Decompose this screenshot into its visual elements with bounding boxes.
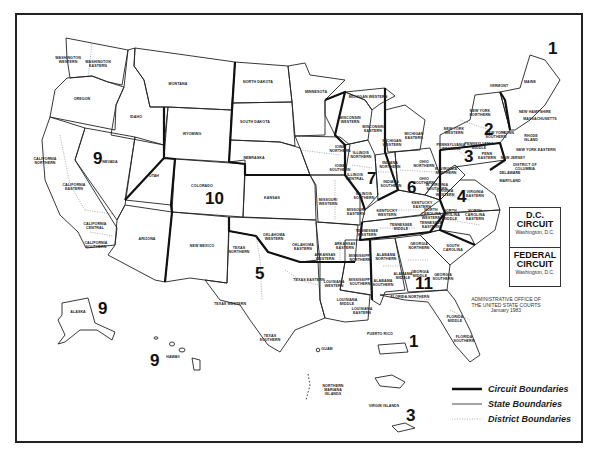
district-label: NEW MEXICO bbox=[182, 244, 222, 248]
district-label: OREGON bbox=[62, 97, 102, 101]
circuit-number: 2 bbox=[484, 121, 493, 138]
federal-circuit: FEDERAL CIRCUIT Washington, D.C. bbox=[510, 247, 560, 286]
district-label: NEW JERSEY bbox=[493, 156, 533, 160]
circuit-number: 6 bbox=[407, 179, 416, 196]
district-label: FLORIDA SOUTHERN bbox=[444, 335, 484, 343]
circuit-number: 1 bbox=[548, 40, 557, 57]
district-label: CALIFORNIA CENTRAL bbox=[75, 222, 115, 230]
district-label: MONTANA bbox=[158, 82, 198, 86]
district-label: NORTH DAKOTA bbox=[238, 80, 278, 84]
circuit-number: 1 bbox=[409, 333, 418, 350]
federal-circuit-title-2: CIRCUIT bbox=[510, 260, 560, 269]
district-label: OKLAHOMA WESTERN bbox=[254, 233, 294, 241]
legend-samples bbox=[452, 389, 482, 419]
district-label: MASSACHUSETTS bbox=[520, 117, 560, 121]
circuit-number: 3 bbox=[464, 148, 473, 165]
district-label: WYOMING bbox=[172, 132, 212, 136]
circuit-number: 9 bbox=[150, 352, 159, 369]
dc-circuit-location: Washington, D.C. bbox=[510, 229, 560, 236]
state-montana bbox=[134, 48, 235, 110]
district-label: ILLINOIS SOUTHERN bbox=[344, 192, 384, 200]
legend-label: Circuit Boundaries bbox=[488, 384, 569, 394]
district-label: MARYLAND bbox=[490, 179, 530, 183]
district-label: WISCONSIN WESTERN bbox=[330, 116, 370, 124]
district-label: W. VIRGINIA NORTHERN bbox=[426, 167, 466, 175]
district-label: COLORADO bbox=[182, 184, 222, 188]
district-label: CALIFORNIA EASTERN bbox=[54, 183, 94, 191]
district-label: CALIFORNIA SOUTHERN bbox=[76, 241, 116, 249]
circuit-number: 10 bbox=[205, 190, 224, 207]
district-label: VIRGIN ISLANDS bbox=[364, 404, 404, 408]
district-label: NEW HAMPSHIRE bbox=[515, 110, 555, 114]
district-label: FLORIDA MIDDLE bbox=[435, 315, 475, 323]
district-label: KANSAS bbox=[252, 196, 292, 200]
special-circuits-box: D.C. CIRCUIT Washington, D.C. FEDERAL CI… bbox=[509, 207, 561, 287]
district-label: MICHIGAN WESTERN bbox=[372, 139, 412, 147]
circuit-number: 9 bbox=[98, 300, 107, 317]
circuit-boundary-9-10 bbox=[125, 107, 175, 282]
circuit-number: 7 bbox=[367, 170, 376, 187]
district-label: LOUISIANA EASTERN bbox=[342, 307, 382, 315]
district-label: GUAM bbox=[307, 347, 347, 351]
district-label: NEW YORK NORTHERN bbox=[460, 109, 500, 117]
district-label: PUERTO RICO bbox=[360, 332, 400, 336]
district-label: ARIZONA bbox=[127, 237, 167, 241]
state-florida bbox=[380, 290, 480, 362]
district-label: KENTUCKY WESTERN bbox=[367, 209, 407, 217]
district-label: IOWA SOUTHERN bbox=[320, 164, 360, 172]
district-label: TEXAS NORTHERN bbox=[219, 246, 259, 254]
district-label: VERMONT bbox=[479, 84, 519, 88]
district-label: FLORIDA NORTHERN bbox=[390, 295, 430, 299]
district-label: TEXAS SOUTHERN bbox=[250, 334, 290, 342]
dc-circuit: D.C. CIRCUIT Washington, D.C. bbox=[510, 208, 560, 247]
circuit-number: 11 bbox=[415, 275, 433, 292]
state-utah bbox=[125, 137, 175, 205]
circuit-number: 9 bbox=[93, 150, 102, 167]
district-label: SOUTH DAKOTA bbox=[235, 120, 275, 124]
district-label: NORTH CAROLINA EASTERN bbox=[455, 209, 495, 222]
district-label: NEW YORK WESTERN bbox=[434, 127, 474, 135]
district-label: ALASKA bbox=[58, 310, 98, 314]
district-label: TENNESSEE EASTERN bbox=[411, 221, 451, 229]
district-label: NEBRASKA bbox=[234, 156, 274, 160]
district-label: MINNESOTA bbox=[296, 90, 336, 94]
district-label: RHODE ISLAND bbox=[511, 134, 551, 142]
state-idaho bbox=[111, 48, 168, 145]
district-label: WASHINGTON EASTERN bbox=[78, 60, 118, 68]
district-label: W. VIRGINIA SOUTHERN bbox=[417, 183, 457, 191]
credit-date: January 1983 bbox=[466, 308, 546, 314]
circuit-number: 3 bbox=[406, 407, 415, 424]
district-label: TEXAS WESTERN bbox=[210, 302, 250, 306]
district-label: NORTHERN MARIANA ISLANDS bbox=[313, 384, 353, 397]
district-label: UTAH bbox=[134, 174, 174, 178]
circuit-boundary-5-11 bbox=[370, 240, 372, 300]
district-label: CALIFORNIA NORTHERN bbox=[25, 157, 65, 165]
district-label: OKLAHOMA EASTERN bbox=[283, 243, 323, 251]
circuit-number: 5 bbox=[255, 265, 264, 282]
district-label: MICHIGAN WESTERN bbox=[348, 95, 388, 99]
district-label: MISSOURI WESTERN bbox=[308, 198, 348, 206]
district-label: NEW YORK EASTERN bbox=[516, 148, 556, 152]
circuit-number: 4 bbox=[457, 188, 466, 205]
district-label: ARKANSAS EASTERN bbox=[325, 242, 365, 250]
district-label: LOUISIANA MIDDLE bbox=[327, 298, 367, 306]
district-label: DELAWARE bbox=[490, 171, 530, 175]
federal-circuit-location: Washington, D.C. bbox=[510, 269, 560, 276]
district-label: MAINE bbox=[510, 80, 550, 84]
district-label: WISCONSIN EASTERN bbox=[353, 125, 393, 133]
district-label: ALABAMA SOUTHERN bbox=[363, 279, 403, 287]
district-label: ILLINOIS NORTHERN bbox=[341, 151, 381, 159]
district-label: SOUTH CAROLINA bbox=[433, 244, 473, 252]
district-label: IDAHO bbox=[116, 115, 156, 119]
legend-label: State Boundaries bbox=[488, 399, 562, 409]
district-label: ALABAMA NORTHERN bbox=[366, 253, 406, 261]
legend-label: District Boundaries bbox=[488, 414, 571, 424]
puerto-rico bbox=[378, 343, 408, 354]
credit-text: ADMINISTRATIVE OFFICE OF THE UNITED STAT… bbox=[466, 297, 546, 314]
dc-circuit-title-2: CIRCUIT bbox=[510, 220, 560, 229]
district-label: ARKANSAS WESTERN bbox=[305, 253, 345, 261]
state-arizona bbox=[108, 205, 172, 282]
